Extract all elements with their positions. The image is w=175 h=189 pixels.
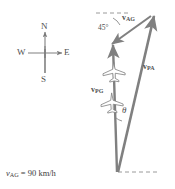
angle-arc-45 [113, 18, 120, 25]
compass-label-north: N [41, 22, 48, 31]
vector-label-vpa: vPA [143, 63, 155, 71]
caption-value: = 90 km/h [21, 168, 56, 178]
vector-label-vpa-subscript: PA [147, 65, 155, 71]
compass-label-south: S [41, 75, 46, 84]
compass-rose [28, 32, 62, 73]
compass-label-west: W [17, 48, 26, 57]
airplane-icon-lower [101, 93, 124, 114]
vector-label-vag-subscript: AG [126, 16, 135, 22]
angle-label-theta: θ [122, 106, 126, 115]
vector-label-vpg: vPG [91, 86, 103, 94]
figure-caption: vAG = 90 km/h [6, 168, 56, 178]
vector-vpa-arrow [118, 16, 154, 172]
airplane-icon-upper [103, 62, 126, 83]
caption-subscript: AG [10, 171, 19, 178]
vector-diagram-figure [0, 0, 175, 189]
vector-label-vpg-subscript: PG [95, 88, 103, 94]
angle-arc-theta [116, 118, 122, 121]
compass-label-east: E [64, 48, 70, 57]
angle-label-45: 45° [98, 24, 109, 32]
vector-label-vag: vAG [122, 14, 135, 22]
